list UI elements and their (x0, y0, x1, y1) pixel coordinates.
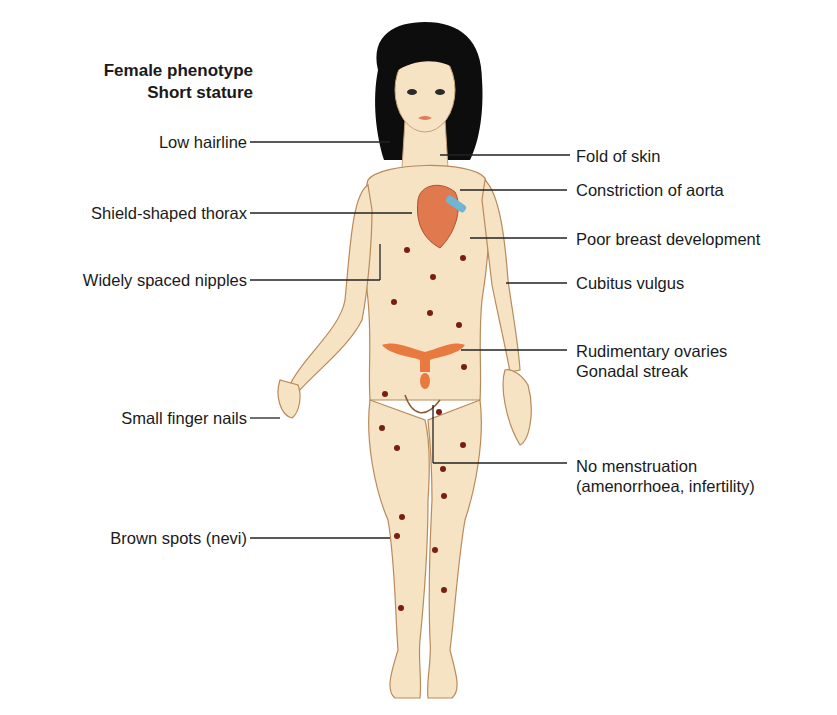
title-line-1: Female phenotype (40, 60, 253, 82)
label-no-menstruation: No menstruation (amenorrhoea, infertilit… (576, 456, 755, 496)
label-shield-thorax: Shield-shaped thorax (91, 203, 247, 223)
left-leg (369, 400, 430, 698)
label-small-finger-nails: Small finger nails (121, 408, 247, 428)
left-arm (290, 185, 372, 392)
label-line: No menstruation (576, 456, 755, 476)
right-hand (503, 370, 531, 445)
right-arm (482, 180, 520, 372)
label-constriction-aorta: Constriction of aorta (576, 180, 724, 200)
label-rudimentary-ovaries: Rudimentary ovaries Gonadal streak (576, 341, 727, 381)
label-cubitus-vulgus: Cubitus vulgus (576, 273, 684, 293)
left-hand (278, 380, 300, 418)
label-fold-of-skin: Fold of skin (576, 146, 660, 166)
turner-syndrome-diagram: Female phenotype Short stature Low hairl… (0, 0, 837, 715)
diagram-title: Female phenotype Short stature (40, 60, 253, 104)
label-poor-breast-development: Poor breast development (576, 229, 760, 249)
label-widely-spaced-nipples: Widely spaced nipples (83, 270, 247, 290)
label-low-hairline: Low hairline (159, 132, 247, 152)
label-line: (amenorrhoea, infertility) (576, 476, 755, 496)
label-brown-spots: Brown spots (nevi) (110, 528, 247, 548)
label-line: Gonadal streak (576, 361, 727, 381)
label-line: Rudimentary ovaries (576, 341, 727, 361)
title-line-2: Short stature (40, 82, 253, 104)
